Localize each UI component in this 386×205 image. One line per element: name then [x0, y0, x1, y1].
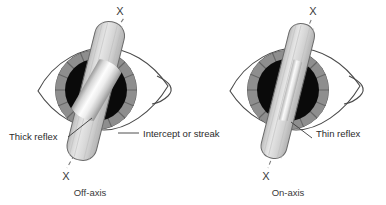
axis-marker-bottom-right: X	[262, 170, 270, 182]
axis-marker-top-left: X	[116, 5, 124, 17]
label-thin-reflex: Thin reflex	[316, 128, 361, 139]
caption-on-axis: On-axis	[272, 187, 305, 198]
label-intercept-or-streak: Intercept or streak	[143, 128, 220, 139]
figure-canvas: X X	[0, 0, 386, 205]
axis-marker-top-right: X	[309, 5, 317, 17]
caption-off-axis: Off-axis	[74, 187, 107, 198]
axis-marker-bottom-left: X	[62, 170, 70, 182]
retinoscopy-figure: X X	[0, 0, 386, 205]
label-thick-reflex: Thick reflex	[9, 131, 58, 142]
